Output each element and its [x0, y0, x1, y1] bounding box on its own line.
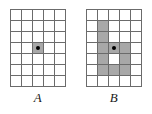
grid-cell [120, 65, 131, 76]
grid-cell [44, 76, 55, 87]
center-dot-marker [112, 46, 116, 50]
grid-cell [22, 32, 33, 43]
grid-cell [33, 43, 44, 54]
grid-cell [11, 43, 22, 54]
panel-a: A [0, 9, 76, 104]
grid-cell [120, 21, 131, 32]
grid-cell [109, 43, 120, 54]
grid-cell [120, 32, 131, 43]
center-dot-marker [36, 46, 40, 50]
grid-cell [87, 65, 98, 76]
grid-cell [44, 43, 55, 54]
grid-cell [98, 10, 109, 21]
grid-figure: A B [0, 0, 152, 114]
grid-cell [22, 76, 33, 87]
grid-cell [87, 54, 98, 65]
grid-cell [109, 76, 120, 87]
grid-cell [131, 76, 142, 87]
panel-b: B [76, 9, 152, 104]
grid-cell [33, 76, 44, 87]
grid-cell [87, 43, 98, 54]
grid-cell [44, 54, 55, 65]
grid-cell [131, 65, 142, 76]
grid-cell [11, 76, 22, 87]
grid-cell [44, 10, 55, 21]
panel-b-label: B [110, 91, 118, 104]
grid-cell [11, 65, 22, 76]
grid-cell [131, 43, 142, 54]
grid-cell [87, 32, 98, 43]
grid-cell [98, 43, 109, 54]
grid-cell [22, 54, 33, 65]
grid-cell [120, 43, 131, 54]
grid-cell [11, 54, 22, 65]
grid-cell [22, 10, 33, 21]
grid-cell [98, 21, 109, 32]
grid-cell [33, 21, 44, 32]
grid-cell [98, 76, 109, 87]
grid-cell [33, 32, 44, 43]
grid-cell [22, 65, 33, 76]
grid-cell [33, 65, 44, 76]
grid-cell [11, 10, 22, 21]
grid-cell [87, 21, 98, 32]
grid-cell [11, 32, 22, 43]
grid-cell [33, 54, 44, 65]
grid-cell [131, 21, 142, 32]
grid-cell [55, 54, 66, 65]
grid-cell [44, 32, 55, 43]
grid-cell [55, 43, 66, 54]
grid-cell [120, 10, 131, 21]
grid-cell [120, 76, 131, 87]
grid-cell [44, 21, 55, 32]
grid-cell [131, 10, 142, 21]
grid-cell [131, 32, 142, 43]
grid-cell [11, 21, 22, 32]
grid-cell [87, 10, 98, 21]
grid-cell [98, 65, 109, 76]
grid-cell [98, 54, 109, 65]
grid-cell [55, 32, 66, 43]
grid-cell [33, 10, 44, 21]
grid-cell [55, 21, 66, 32]
grid-cell [44, 65, 55, 76]
grid-cell [109, 21, 120, 32]
grid-cell [109, 32, 120, 43]
grid-cell [131, 54, 142, 65]
grid-a [10, 9, 66, 87]
grid-cell [87, 76, 98, 87]
grid-cell [55, 65, 66, 76]
grid-cell [55, 10, 66, 21]
grid-cell [109, 54, 120, 65]
grid-cell [22, 43, 33, 54]
grid-cell [98, 32, 109, 43]
panel-a-label: A [34, 91, 42, 104]
grid-cell [109, 10, 120, 21]
grid-b [86, 9, 142, 87]
grid-cell [109, 65, 120, 76]
grid-cell [22, 21, 33, 32]
grid-cell [120, 54, 131, 65]
grid-cell [55, 76, 66, 87]
